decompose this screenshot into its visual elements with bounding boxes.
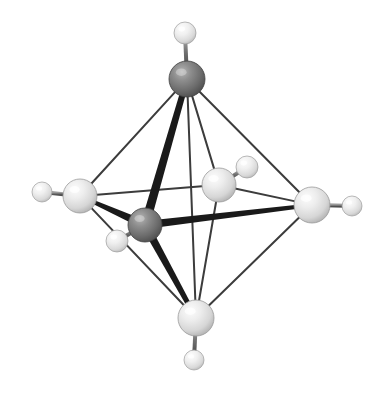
specular-highlight bbox=[346, 200, 352, 204]
primary-bond bbox=[154, 205, 298, 228]
octahedron-edges-group bbox=[89, 89, 301, 307]
hydrogen-atom-sphere bbox=[174, 22, 196, 44]
primary-bond bbox=[146, 231, 191, 306]
hydrogen-atom-sphere bbox=[184, 350, 204, 370]
ligand-atom-sphere bbox=[63, 179, 97, 213]
primary-bond bbox=[143, 92, 186, 217]
specular-highlight bbox=[301, 194, 312, 202]
octahedron-edge bbox=[94, 186, 205, 195]
molecule-figure-canvas bbox=[0, 0, 391, 395]
metal-atom-sphere bbox=[128, 208, 162, 242]
specular-highlight bbox=[69, 186, 79, 193]
ligand-atom-sphere bbox=[202, 168, 236, 202]
specular-highlight bbox=[134, 215, 144, 222]
specular-highlight bbox=[185, 307, 196, 315]
specular-highlight bbox=[110, 235, 117, 240]
specular-highlight bbox=[188, 354, 194, 358]
molecule-diagram bbox=[0, 0, 391, 395]
ligand-atom-sphere bbox=[294, 187, 330, 223]
hydrogen-atom-sphere bbox=[106, 230, 128, 252]
specular-highlight bbox=[240, 161, 247, 166]
specular-highlight bbox=[36, 186, 42, 190]
hydrogen-atom-sphere bbox=[236, 156, 258, 178]
hydrogen-atom-sphere bbox=[32, 182, 52, 202]
hydrogen-atom-sphere bbox=[342, 196, 362, 216]
octahedron-edge bbox=[233, 188, 298, 202]
ligand-atom-sphere bbox=[178, 300, 214, 336]
octahedron-edge bbox=[188, 94, 196, 304]
atoms-group bbox=[63, 61, 330, 336]
specular-highlight bbox=[176, 68, 187, 76]
specular-highlight bbox=[178, 27, 185, 32]
specular-highlight bbox=[208, 175, 218, 182]
metal-atom-sphere bbox=[169, 61, 205, 97]
octahedron-edge bbox=[207, 215, 302, 307]
